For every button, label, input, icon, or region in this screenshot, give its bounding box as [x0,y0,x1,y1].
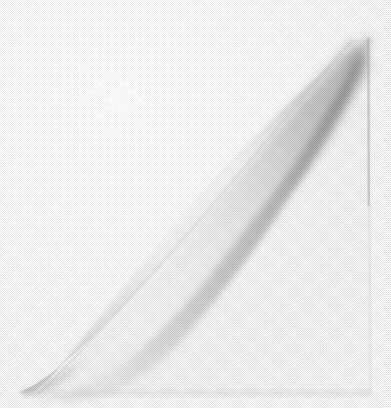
sheet-right-edge-shadowed [368,38,369,206]
paper-curl-image: Scanned grayscale photograph of a sheet … [0,0,391,408]
curled-paper-illustration [0,0,391,408]
